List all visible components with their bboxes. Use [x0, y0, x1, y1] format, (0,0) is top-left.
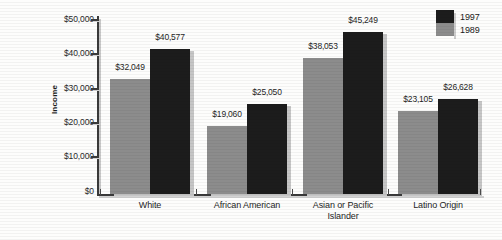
x-tick-mark: [292, 189, 293, 195]
legend-label: 1997: [460, 12, 480, 22]
y-tick-mark: [91, 53, 98, 55]
bar-african-american-1997[interactable]: [247, 104, 287, 194]
y-tick-mark-shadow: [93, 90, 100, 91]
plot-area: $32,049$40,577White$19,060$25,050African…: [0, 0, 502, 240]
y-tick-mark-shadow: [93, 21, 100, 22]
x-tick-mark: [480, 189, 481, 195]
legend-label: 1989: [460, 25, 480, 35]
bar-latino-origin-1989[interactable]: [398, 111, 438, 194]
x-tick-mark: [388, 189, 389, 195]
x-category-label-line1: Latino Origin: [378, 200, 498, 211]
bar-white-1989[interactable]: [110, 79, 150, 194]
y-tick-mark-shadow: [93, 158, 100, 159]
bar-white-1997[interactable]: [150, 49, 190, 194]
chart-legend: 19971989: [436, 10, 480, 36]
x-category-label: Latino Origin: [378, 200, 498, 211]
income-bar-chart: Income $50,000$40,000$30,000$20,000$10,0…: [0, 0, 502, 240]
legend-swatch-icon: [436, 10, 454, 23]
y-tick-mark-shadow: [93, 124, 100, 125]
legend-swatch-icon: [436, 23, 454, 36]
bar-asian-or-pacific-1989[interactable]: [303, 58, 343, 194]
y-tick-mark: [91, 156, 98, 158]
y-tick-mark: [91, 19, 98, 21]
x-category-label-line2: Islander: [283, 211, 403, 222]
bar-value-label: $25,050: [232, 87, 302, 97]
x-tick-mark: [100, 189, 101, 195]
legend-item-1997[interactable]: 1997: [436, 10, 480, 23]
bar-value-label: $40,577: [135, 32, 205, 42]
y-tick-mark: [91, 122, 98, 124]
y-tick-mark: [91, 88, 98, 90]
legend-item-1989[interactable]: 1989: [436, 23, 480, 36]
bar-asian-or-pacific-1997[interactable]: [343, 32, 383, 194]
bar-value-label: $26,628: [423, 82, 493, 92]
y-tick-mark-shadow: [93, 55, 100, 56]
bar-value-label: $45,249: [328, 15, 398, 25]
x-tick-mark: [196, 189, 197, 195]
bar-african-american-1989[interactable]: [207, 126, 247, 194]
bar-latino-origin-1997[interactable]: [438, 99, 478, 194]
